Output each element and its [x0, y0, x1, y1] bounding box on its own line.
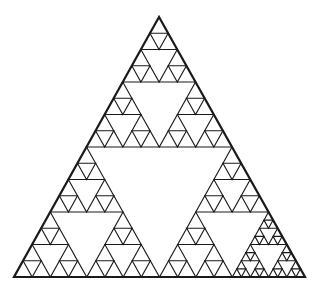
inner-triangle-outline: [132, 261, 150, 277]
inner-triangle-outline: [237, 269, 246, 277]
inner-triangle-outline: [264, 220, 273, 228]
inner-triangle-outline: [273, 269, 282, 277]
inner-triangle-outline: [273, 236, 282, 244]
sierpinski-figure: [0, 0, 319, 292]
inner-triangle-outline: [96, 131, 114, 147]
inner-triangle-outline: [187, 228, 205, 244]
inner-triangle-outline: [223, 163, 241, 179]
inner-triangle-outline: [169, 261, 187, 277]
inner-triangle-outline: [205, 196, 223, 212]
inner-triangle-outline: [282, 253, 291, 261]
inner-triangle-outline: [96, 261, 114, 277]
inner-triangle-outline: [168, 66, 186, 82]
inner-triangle-outline: [150, 33, 168, 49]
inner-triangle-outline: [114, 98, 132, 114]
inner-triangle-outline: [255, 236, 264, 244]
inner-triangle-outline: [186, 98, 204, 114]
inner-triangle-outline: [114, 228, 132, 244]
inner-triangle-outline: [23, 261, 41, 277]
inner-triangle-outline: [59, 196, 77, 212]
inner-triangle-outline: [77, 163, 95, 179]
inner-triangle-outline: [41, 228, 59, 244]
inner-triangle-outline: [246, 253, 255, 261]
inner-triangle-outline: [255, 269, 264, 277]
inner-triangle-outline: [168, 131, 186, 147]
inner-triangle-outline: [132, 66, 150, 82]
inner-triangle-outline: [96, 196, 114, 212]
inner-triangle-outline: [291, 269, 300, 277]
sierpinski-triangle: [0, 0, 319, 292]
inner-triangle-outline: [132, 131, 150, 147]
inner-triangle-outline: [241, 196, 259, 212]
inner-triangle-outline: [205, 131, 223, 147]
inner-triangle-outline: [205, 261, 223, 277]
inner-triangle-outline: [59, 261, 77, 277]
